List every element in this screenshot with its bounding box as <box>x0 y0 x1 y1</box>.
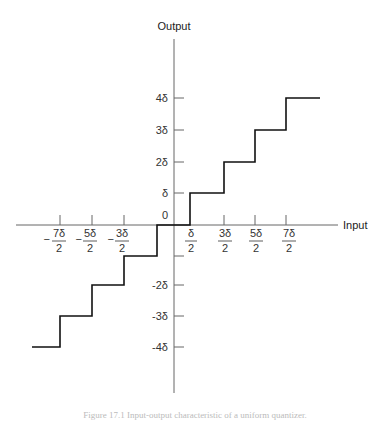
svg-text:2: 2 <box>222 242 228 254</box>
quantizer-chart: Output Input 4δ 3δ 2δ δ 0 -2δ -3δ -4δ − … <box>0 0 390 425</box>
svg-text:δ: δ <box>162 187 168 199</box>
y-ticks <box>174 98 184 347</box>
svg-text:2: 2 <box>253 242 259 254</box>
x-axis-label: Input <box>343 219 367 231</box>
y-axis-label: Output <box>157 20 190 32</box>
svg-text:3δ: 3δ <box>116 227 128 239</box>
svg-text:−: − <box>44 233 50 245</box>
svg-text:2: 2 <box>286 242 292 254</box>
svg-text:2: 2 <box>188 242 194 254</box>
svg-text:δ: δ <box>188 227 194 239</box>
x-tick-labels: − 7δ 2 − 5δ 2 − 3δ 2 δ 2 3δ 2 5δ 2 7δ 2 <box>44 227 296 254</box>
quantizer-staircase <box>32 98 320 347</box>
svg-text:-2δ: -2δ <box>152 279 168 291</box>
svg-text:-3δ: -3δ <box>152 310 168 322</box>
x-ticks <box>60 215 286 225</box>
figure-caption: Figure 17.1 Input-output characteristic … <box>0 410 390 420</box>
svg-text:2: 2 <box>87 242 93 254</box>
svg-text:2: 2 <box>56 242 62 254</box>
svg-text:7δ: 7δ <box>283 227 295 239</box>
svg-text:−: − <box>76 233 82 245</box>
svg-text:0: 0 <box>162 209 168 221</box>
svg-text:-4δ: -4δ <box>152 341 168 353</box>
svg-text:2δ: 2δ <box>156 156 168 168</box>
svg-text:5δ: 5δ <box>84 227 96 239</box>
svg-text:3δ: 3δ <box>156 124 168 136</box>
svg-text:4δ: 4δ <box>156 92 168 104</box>
svg-text:7δ: 7δ <box>53 227 65 239</box>
svg-text:5δ: 5δ <box>250 227 262 239</box>
y-tick-labels: 4δ 3δ 2δ δ 0 -2δ -3δ -4δ <box>152 92 168 353</box>
svg-text:3δ: 3δ <box>219 227 231 239</box>
svg-text:2: 2 <box>119 242 125 254</box>
svg-text:−: − <box>108 233 114 245</box>
